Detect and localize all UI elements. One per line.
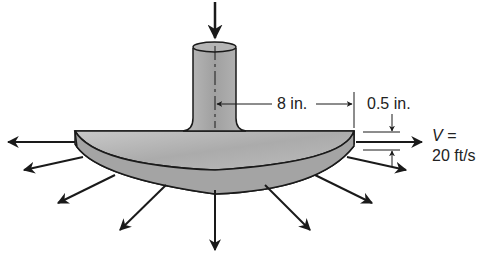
disk [75,131,354,194]
velocity-value: 20 ft/s [432,148,476,164]
velocity-equals: = [447,127,456,144]
pipe [183,42,246,131]
velocity-label: V = [432,128,456,144]
gap-label: 0.5 in. [367,96,411,112]
radius-label: 8 in. [277,96,307,112]
pipe-disk-diagram [0,0,496,263]
gap-dimension [363,114,400,166]
velocity-symbol: V [432,127,443,144]
